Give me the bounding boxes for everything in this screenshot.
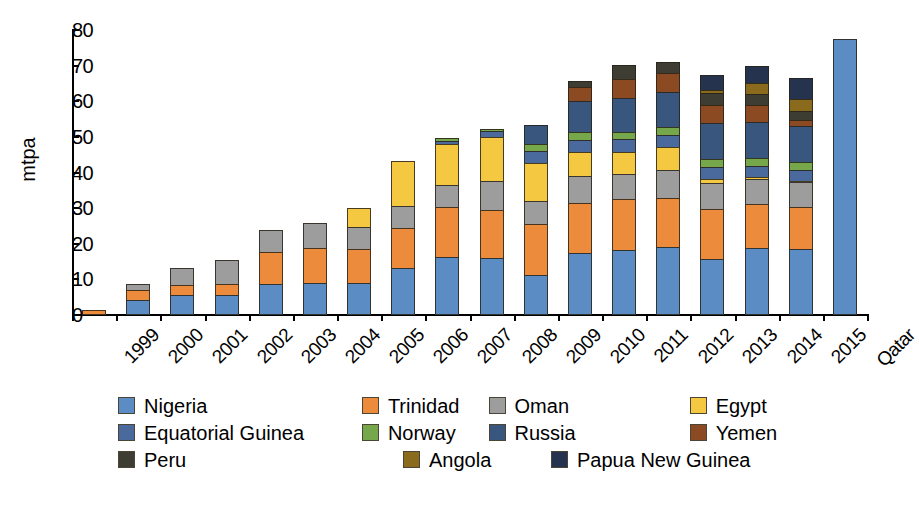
bar-2005 — [347, 208, 371, 315]
bar-2012 — [656, 62, 680, 315]
bar-segment-nigeria — [480, 258, 504, 315]
bar-2002 — [215, 260, 239, 315]
legend-label: Angola — [429, 450, 491, 470]
legend-item-angola[interactable]: Angola — [403, 450, 551, 470]
bar-segment-trinidad — [480, 210, 504, 258]
bar-segment-yemen — [612, 79, 636, 99]
bar-2001 — [170, 268, 194, 315]
x-axis-tick-mark — [514, 314, 516, 321]
x-axis-tick-mark — [72, 314, 74, 321]
bar-segment-oman — [259, 230, 283, 253]
legend-label: Oman — [515, 396, 569, 416]
y-axis-tick-mark — [72, 172, 79, 174]
legend-row: PeruAngolaPapua New Guinea — [118, 446, 818, 473]
bar-segment-egypt — [480, 137, 504, 182]
x-axis-tick-label: 2008 — [517, 324, 561, 368]
legend-label: Peru — [144, 450, 186, 470]
legend-label: Norway — [388, 423, 456, 443]
bar-segment-russia — [524, 125, 548, 146]
x-axis-tick-label: 2014 — [782, 324, 826, 368]
bar-segment-russia — [568, 101, 592, 134]
x-axis-tick-label: 2002 — [252, 324, 296, 368]
x-axis-tick-label: 1999 — [120, 324, 164, 368]
bar-2000 — [126, 284, 150, 315]
bar-segment-oman — [789, 182, 813, 208]
bar-segment-yemen — [745, 105, 769, 122]
bar-segment-trinidad — [524, 224, 548, 276]
legend-item-equatorial-guinea[interactable]: Equatorial Guinea — [118, 423, 362, 443]
x-axis-tick-mark — [867, 314, 869, 321]
legend-label: Russia — [515, 423, 576, 443]
bar-segment-papua-new-guinea — [745, 66, 769, 84]
x-axis-tick-label: 2000 — [164, 324, 208, 368]
legend-item-oman[interactable]: Oman — [489, 396, 690, 416]
bar-segment-oman — [656, 170, 680, 200]
legend-item-nigeria[interactable]: Nigeria — [118, 396, 362, 416]
y-axis-tick-mark — [72, 100, 79, 102]
y-axis-tick-mark — [72, 243, 79, 245]
bar-segment-oman — [347, 227, 371, 250]
bar-segment-trinidad — [745, 204, 769, 249]
bar-segment-nigeria — [126, 300, 150, 315]
bar-2011 — [612, 65, 636, 315]
bar-segment-oman — [612, 174, 636, 200]
bar-segment-russia — [745, 122, 769, 159]
bar-segment-russia — [700, 123, 724, 159]
bar-segment-nigeria — [347, 283, 371, 315]
x-axis-tick-mark — [116, 314, 118, 321]
bar-2014 — [745, 66, 769, 315]
x-axis-tick-mark — [558, 314, 560, 321]
x-axis-tick-mark — [337, 314, 339, 321]
legend-label: Nigeria — [144, 396, 207, 416]
x-axis-tick-mark — [205, 314, 207, 321]
legend-swatch-icon — [489, 424, 506, 441]
bar-segment-nigeria — [612, 250, 636, 315]
x-axis-tick-mark — [735, 314, 737, 321]
x-axis-tick-mark — [690, 314, 692, 321]
legend-swatch-icon — [551, 451, 568, 468]
bar-segment-egypt — [347, 208, 371, 228]
x-axis-tick-label: 2012 — [694, 324, 738, 368]
x-axis-tick-label: 2007 — [473, 324, 517, 368]
legend-swatch-icon — [403, 451, 420, 468]
x-axis-tick-mark — [381, 314, 383, 321]
x-axis-tick-mark — [160, 314, 162, 321]
bar-Qatar — [833, 39, 857, 315]
bar-2003 — [259, 230, 283, 315]
y-axis-tick-mark — [72, 207, 79, 209]
y-axis-title: mtpa — [17, 137, 40, 181]
legend-swatch-icon — [362, 397, 379, 414]
legend-item-yemen[interactable]: Yemen — [690, 423, 818, 443]
bar-2004 — [303, 223, 327, 315]
bar-segment-papua-new-guinea — [789, 78, 813, 100]
legend-label: Yemen — [716, 423, 778, 443]
x-axis-tick-label: 2001 — [208, 324, 252, 368]
legend-item-papua-new-guinea[interactable]: Papua New Guinea — [551, 450, 786, 470]
bar-2009 — [524, 125, 548, 315]
y-axis-tick-mark — [72, 278, 79, 280]
x-axis-tick-mark — [249, 314, 251, 321]
legend-item-peru[interactable]: Peru — [118, 450, 403, 470]
legend-item-norway[interactable]: Norway — [362, 423, 489, 443]
plot-area — [72, 30, 867, 315]
bar-segment-egypt — [524, 163, 548, 201]
bar-segment-oman — [170, 268, 194, 287]
bar-segment-oman — [303, 223, 327, 249]
bar-2013 — [700, 75, 724, 315]
bar-segment-nigeria — [656, 247, 680, 315]
bar-segment-russia — [656, 92, 680, 128]
x-axis-tick-label: 2005 — [385, 324, 429, 368]
bar-2010 — [568, 81, 592, 315]
legend-swatch-icon — [118, 451, 135, 468]
legend-item-russia[interactable]: Russia — [489, 423, 690, 443]
bar-segment-trinidad — [303, 248, 327, 283]
x-axis-tick-label: 2011 — [649, 324, 692, 367]
bar-segment-papua-new-guinea — [700, 75, 724, 91]
legend-item-egypt[interactable]: Egypt — [690, 396, 818, 416]
legend-item-trinidad[interactable]: Trinidad — [362, 396, 489, 416]
x-axis-tick-mark — [470, 314, 472, 321]
y-axis-tick-mark — [72, 29, 79, 31]
y-axis-tick-mark — [72, 136, 79, 138]
bar-segment-egypt — [391, 161, 415, 207]
x-axis-tick-label: 2009 — [562, 324, 606, 368]
